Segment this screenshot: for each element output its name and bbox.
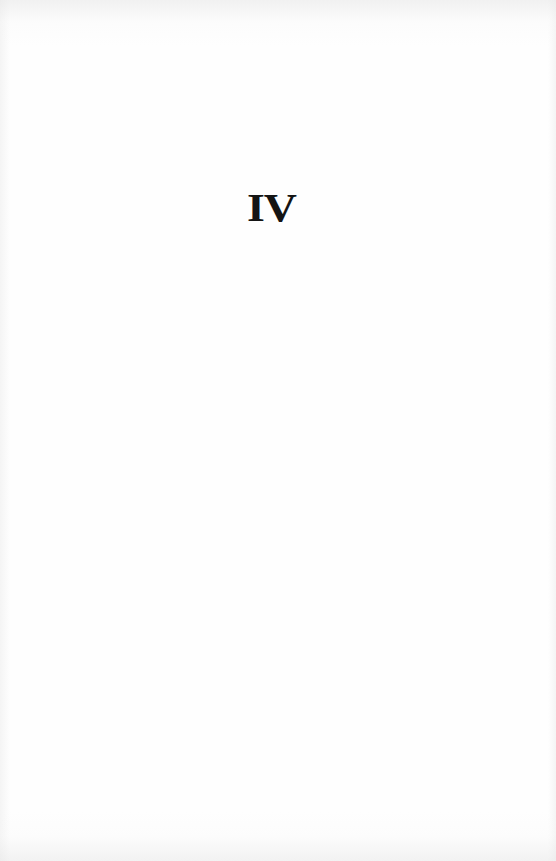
book-page: IV bbox=[0, 0, 556, 861]
part-number-heading: IV bbox=[0, 183, 556, 231]
